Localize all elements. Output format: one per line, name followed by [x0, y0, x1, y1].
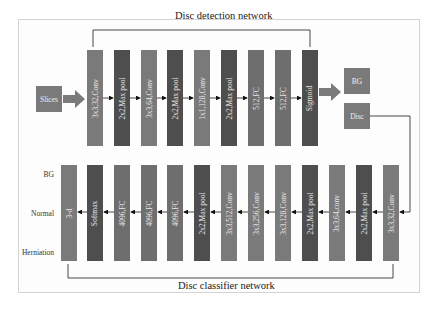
class-label-bg: BG [4, 170, 54, 179]
detection-layer: 3x3,64,Conv [141, 50, 157, 146]
layer-label: 2x2,Max pool [118, 77, 127, 119]
layer-label: 4096,FC [145, 200, 154, 226]
layer-label: 3x3,64,Conv [145, 79, 154, 118]
layer-label: 4096,FC [171, 200, 180, 226]
layer-label: 512,FC [279, 87, 288, 109]
classifier-layer: 2x2,Max pool [302, 165, 318, 261]
layer-label: 1x1,128,Conv [198, 77, 207, 120]
classifier-layer: Softmax [87, 165, 103, 261]
layer-label: 3x3,256,Conv [252, 192, 261, 235]
classifier-layer: 4096,FC [141, 165, 157, 261]
layer-label: 3-d [65, 208, 74, 218]
slices-input-box: Slices [36, 86, 62, 112]
classifier-layer: 3x3,64,conv [329, 165, 345, 261]
detection-layer: 3x3,32,Conv [87, 50, 103, 146]
layer-label: 3x3,32,Conv [387, 194, 396, 233]
layer-label: 3x3,512,Conv [225, 192, 234, 235]
detection-layer: 2x2,Max pool [221, 50, 237, 146]
classifier-layer: 3-d [61, 165, 77, 261]
layer-label: 512,FC [252, 87, 261, 109]
detection-layer: 512,FC [248, 50, 264, 146]
detection-layer: 2x2,Max pool [114, 50, 130, 146]
layer-label: 2x2,Max pool [306, 192, 315, 234]
layer-label: 4096,FC [118, 200, 127, 226]
layer-label: 3x3,128,Conv [279, 192, 288, 235]
detection-layer: 512,FC [275, 50, 291, 146]
classifier-network-title: Disc classifier network [178, 280, 275, 291]
classifier-layer: 3x3,256,Conv [248, 165, 264, 261]
layer-label: 3x3,64,conv [333, 194, 342, 231]
classifier-layer: 3x3,32,Conv [383, 165, 399, 261]
layer-label: Softmax [91, 200, 100, 225]
class-label-normal: Normal [4, 209, 54, 218]
output-bg-box: BG [344, 68, 370, 94]
detection-layer: Sigmoid [302, 50, 318, 146]
classifier-layer: 2x2,Max pool [356, 165, 372, 261]
layer-label: 2x2,Max pool [171, 77, 180, 119]
class-label-herniation: Herniation [4, 248, 54, 257]
layer-label: 2x2,Max pool [198, 192, 207, 234]
classifier-layer: 4096,FC [114, 165, 130, 261]
layer-label: Sigmoid [306, 85, 315, 110]
layer-label: 2x2,Max pool [225, 77, 234, 119]
classifier-layer: 3x3,512,Conv [221, 165, 237, 261]
diagram-canvas: Disc detection network Disc classifier n… [0, 0, 439, 313]
detection-layer: 1x1,128,Conv [194, 50, 210, 146]
layer-label: 2x2,Max pool [360, 192, 369, 234]
detection-network-title: Disc detection network [175, 10, 272, 21]
detection-layer: 2x2,Max pool [167, 50, 183, 146]
layer-label: 3x3,32,Conv [91, 79, 100, 118]
output-disc-box: Disc [344, 103, 370, 129]
classifier-layer: 4096,FC [167, 165, 183, 261]
classifier-layer: 3x3,128,Conv [275, 165, 291, 261]
classifier-layer: 2x2,Max pool [194, 165, 210, 261]
